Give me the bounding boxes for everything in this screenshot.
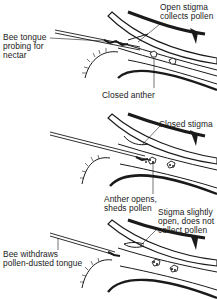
panel-stage-1: Open stigma collects pollen Bee tongue p… bbox=[0, 0, 217, 100]
flower-illustration-stage-2 bbox=[0, 100, 217, 200]
label-bee-withdraws-tongue: Bee withdraws pollen-dusted tongue bbox=[3, 250, 82, 268]
label-bee-tongue-probing: Bee tongue probing for nectar bbox=[3, 33, 46, 60]
label-closed-anther: Closed anther bbox=[102, 91, 155, 100]
panel-stage-2: Closed stigma Anther opens, sheds pollen bbox=[0, 100, 217, 200]
label-stigma-slightly-open: Stigma slightly open, does not collect p… bbox=[158, 208, 214, 235]
label-open-stigma: Open stigma collects pollen bbox=[160, 3, 213, 21]
label-closed-stigma: Closed stigma bbox=[159, 120, 213, 129]
panel-stage-3: Stigma slightly open, does not collect p… bbox=[0, 200, 217, 300]
